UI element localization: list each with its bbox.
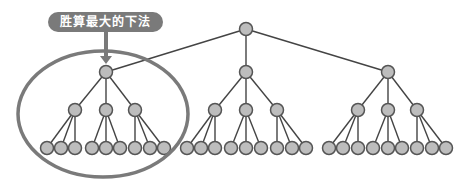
leaf-node [129, 142, 142, 155]
tree-edge [75, 72, 106, 110]
leaf-node [195, 142, 208, 155]
leaf-node [41, 142, 54, 155]
leaf-node [100, 142, 113, 155]
level2-node [209, 104, 222, 117]
level1-node [382, 66, 395, 79]
leaf-node [323, 142, 336, 155]
leaf-node [411, 142, 424, 155]
leaf-node [225, 142, 238, 155]
tree-edge [215, 72, 246, 110]
tree-edge [246, 29, 388, 72]
tree-edge [358, 72, 388, 110]
leaf-node [337, 142, 350, 155]
leaf-node [352, 142, 365, 155]
level1-node [240, 66, 253, 79]
level2-node [129, 104, 142, 117]
leaf-node [367, 142, 380, 155]
leaf-node [426, 142, 439, 155]
leaf-node [396, 142, 409, 155]
leaf-node [300, 142, 313, 155]
leaf-node [55, 142, 68, 155]
leaf-node [114, 142, 127, 155]
leaf-node [271, 142, 284, 155]
leaf-node [286, 142, 299, 155]
level2-node [411, 104, 424, 117]
callout-arrow [100, 32, 112, 64]
leaf-node [209, 142, 222, 155]
arrow-head-icon [100, 56, 112, 64]
root-node [240, 23, 253, 36]
best-move-callout-label: 胜算最大的下法 [48, 12, 163, 32]
leaf-node [144, 142, 157, 155]
level2-node [352, 104, 365, 117]
tree-edge [106, 29, 246, 72]
leaf-node [240, 142, 253, 155]
leaf-node [382, 142, 395, 155]
leaf-node [440, 142, 453, 155]
leaf-node [181, 142, 194, 155]
leaf-node [255, 142, 268, 155]
level2-node [240, 104, 253, 117]
level2-node [382, 104, 395, 117]
leaf-node [86, 142, 99, 155]
level2-node [69, 104, 82, 117]
level1-node [100, 66, 113, 79]
tree-edge [246, 72, 277, 110]
level2-node [100, 104, 113, 117]
leaf-node [69, 142, 82, 155]
level2-node [271, 104, 284, 117]
